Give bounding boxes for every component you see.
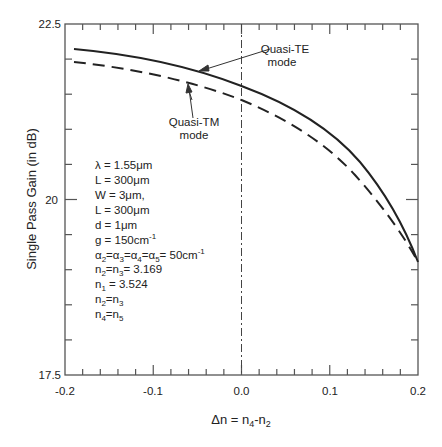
- x-tick-label: 0.1: [322, 385, 338, 397]
- parameters-block: λ = 1.55μm L = 300μm W = 3μm, L = 300μm …: [95, 159, 205, 323]
- y-tick-label: 20: [45, 194, 58, 206]
- param-loss: α2=α3=α4=α5= 50cm-1: [95, 247, 205, 264]
- y-axis-title: Single Pass Gain (in dB): [24, 128, 39, 270]
- param-length-2: L = 300μm: [95, 204, 149, 216]
- x-axis-title: Δn = n4-n2: [211, 412, 271, 429]
- param-n2-eq-n3: n2=n3: [95, 293, 124, 308]
- x-tick-label: 0.2: [410, 385, 426, 397]
- param-length: L = 300μm: [95, 174, 149, 186]
- tm-arrowhead-icon: [186, 84, 192, 93]
- param-n1-value: n1 = 3.524: [95, 278, 148, 293]
- param-n4-eq-n5: n4=n5: [95, 308, 124, 323]
- te-annotation-line2: mode: [268, 56, 297, 68]
- te-arrowhead-icon: [199, 65, 209, 71]
- x-tick-label: -0.2: [55, 385, 75, 397]
- annotation-arrows: [186, 49, 270, 118]
- param-width: W = 3μm,: [95, 189, 145, 201]
- param-thickness: d = 1μm: [95, 219, 137, 231]
- te-annotation-line1: Quasi-TE: [261, 43, 310, 55]
- param-gain: g = 150cm-1: [95, 232, 157, 246]
- chart: Quasi-TE mode Quasi-TM mode λ = 1.55μm L…: [0, 0, 442, 447]
- tm-annotation-line2: mode: [180, 129, 209, 141]
- y-tick-label: 22.5: [39, 18, 61, 30]
- x-tick-label: 0.0: [234, 385, 250, 397]
- y-tick-label: 17.5: [39, 369, 61, 381]
- tm-annotation-line1: Quasi-TM: [169, 116, 219, 128]
- param-wavelength: λ = 1.55μm: [95, 159, 152, 171]
- x-tick-label: -0.1: [143, 385, 163, 397]
- param-n2-n3-value: n2=n3= 3.169: [95, 263, 162, 278]
